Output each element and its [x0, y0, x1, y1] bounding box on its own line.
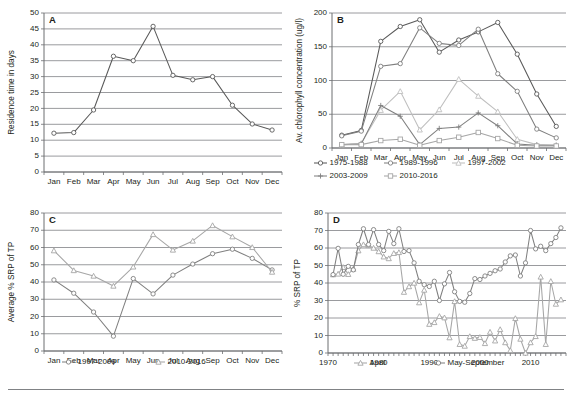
panel-letter: D [333, 214, 340, 225]
data-point [91, 310, 95, 314]
data-point [533, 334, 538, 339]
x-tick-label: May [126, 356, 141, 365]
data-point [458, 299, 462, 303]
series-3 [339, 77, 559, 148]
data-point [336, 246, 340, 250]
data-point [351, 268, 355, 272]
x-tick-label: Jan [47, 177, 60, 186]
data-point [457, 135, 461, 139]
series-1 [330, 242, 563, 355]
y-tick-label: 10 [30, 135, 39, 144]
data-point [398, 24, 402, 28]
data-point [493, 338, 498, 343]
data-point [538, 274, 543, 279]
series-1 [52, 247, 274, 338]
data-point [230, 234, 235, 239]
data-point [447, 270, 451, 274]
x-tick-label: Oct [226, 356, 239, 365]
y-axis-title: % SRP of TP [293, 258, 302, 306]
data-point [171, 273, 175, 277]
legend-label: 2010-2016 [400, 171, 439, 180]
data-point [554, 235, 558, 239]
data-point [230, 247, 234, 251]
panelC-svg: 01020304050607080JanFebMarAprMayJunJulAu… [0, 200, 292, 401]
data-point [483, 274, 487, 278]
data-point [371, 227, 375, 231]
data-point [456, 77, 461, 82]
data-point [422, 283, 426, 287]
data-point [544, 248, 548, 252]
panel-letter: B [337, 14, 344, 25]
data-point [528, 228, 532, 232]
data-point [554, 124, 558, 128]
y-tick-label: 40 [314, 278, 323, 287]
legend-item[interactable]: May-September [432, 358, 505, 367]
series-1 [340, 18, 559, 138]
data-point [452, 290, 456, 294]
legend-item[interactable]: 1989-1996 [384, 158, 438, 167]
legend-marker [388, 161, 392, 165]
y-tick-label: 25 [30, 88, 39, 97]
data-point [150, 232, 155, 237]
x-tick-label: Nov [530, 153, 544, 162]
data-point [402, 249, 406, 253]
data-point [515, 89, 519, 93]
panel-d: 0102030405060708019701980199020002010% S… [292, 200, 574, 401]
data-point [52, 131, 56, 135]
panelD-svg: 0102030405060708019701980199020002010% S… [292, 200, 574, 401]
data-point [151, 24, 155, 28]
panel-c: 01020304050607080JanFebMarAprMayJunJulAu… [0, 200, 292, 401]
data-point [191, 78, 195, 82]
data-point [359, 129, 363, 133]
legend-item[interactable]: 2003-2009 [314, 171, 368, 180]
y-tick-label: 45 [30, 24, 39, 33]
data-point [548, 279, 553, 284]
data-point [171, 73, 175, 77]
y-tick-label: 50 [314, 261, 323, 270]
legend-item[interactable]: 2010-2016 [152, 357, 206, 366]
y-axis-title: Average % SRP of TP [7, 241, 16, 322]
data-point [468, 291, 472, 295]
figure-container: 05101520253035404550JanFebMarAprMayJunJu… [0, 0, 574, 401]
data-point [463, 300, 467, 304]
data-point [488, 271, 492, 275]
data-point [554, 136, 558, 140]
data-point [111, 54, 115, 58]
data-point [496, 20, 500, 24]
x-tick-label: Jun [147, 177, 160, 186]
data-point [422, 287, 427, 292]
data-point [498, 267, 502, 271]
x-tick-label: Sep [205, 356, 220, 365]
legend-label: 2010-2016 [168, 357, 207, 366]
data-point [418, 18, 422, 22]
x-tick-label: Nov [245, 177, 259, 186]
y-tick-label: 5 [35, 151, 40, 160]
data-point [356, 242, 360, 246]
y-tick-label: 50 [30, 8, 39, 17]
y-tick-label: 0 [35, 346, 40, 355]
x-tick-label: Jul [168, 177, 178, 186]
legend-item[interactable]: 2010-2016 [384, 171, 438, 180]
legend-label: 1975-1988 [330, 158, 369, 167]
legend-item[interactable]: April [354, 358, 386, 367]
data-point [543, 342, 548, 347]
data-point [498, 327, 503, 332]
data-point [72, 130, 76, 134]
x-tick-labels: 19701980199020002010 [319, 353, 566, 367]
x-tick-label: 1970 [319, 358, 337, 367]
data-point [398, 89, 403, 94]
data-point [250, 256, 254, 260]
y-axis-title: Av. chlorophyll concentration (ug/l) [295, 18, 304, 143]
data-point [398, 61, 402, 65]
y-tick-label: 50 [318, 109, 327, 118]
y-tick-label: 80 [30, 208, 39, 217]
x-tick-label: 1990 [420, 358, 438, 367]
y-tick-label: 60 [30, 243, 39, 252]
y-tick-labels: 05101520253035404550 [30, 8, 44, 176]
legend-item[interactable]: 1975-1988 [314, 158, 368, 167]
legend-label: April [370, 358, 386, 367]
gridlines [44, 13, 282, 172]
data-point [559, 226, 563, 230]
data-point [111, 334, 115, 338]
panelB-svg: 050100150200JanFebMarAprMayJunJulAugSepO… [292, 0, 574, 200]
